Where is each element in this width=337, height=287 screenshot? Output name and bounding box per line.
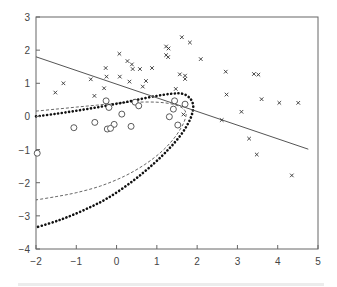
scatter-chart: −2−1012345 −4−3−2−10123 [0,0,337,287]
y-tick-label: 2 [24,45,30,56]
circle-marker [172,98,178,104]
y-tick-label: −1 [19,145,31,156]
x-tick-label: 0 [114,256,120,267]
y-tick-label: 3 [24,12,30,23]
circle-marker [119,111,125,117]
y-tick-label: −4 [19,244,31,255]
circle-marker [128,123,134,129]
x-tick-label: −1 [71,256,83,267]
circle-marker [166,114,172,120]
circle-marker [106,104,112,110]
y-tick-label: 1 [24,78,30,89]
plot-frame [36,17,318,249]
y-tick-label: −3 [19,211,31,222]
circle-marker [103,98,109,104]
circle-marker [136,103,142,109]
circle-marker [34,150,40,156]
bottom-divider [18,283,324,286]
x-tick-label: 1 [154,256,160,267]
x-tick-label: 4 [275,256,281,267]
x-tick-label: −2 [30,256,42,267]
x-tick-label: 3 [235,256,241,267]
plot-area [36,17,318,249]
circle-marker [92,119,98,125]
circle-marker [175,122,181,128]
circle-marker [170,106,176,112]
x-tick-label: 2 [194,256,200,267]
x-tick-label: 5 [315,256,321,267]
circle-marker [108,125,114,131]
y-tick-label: −2 [19,178,31,189]
circle-marker [182,101,188,107]
y-tick-label: 0 [24,111,30,122]
circle-marker [71,125,77,131]
